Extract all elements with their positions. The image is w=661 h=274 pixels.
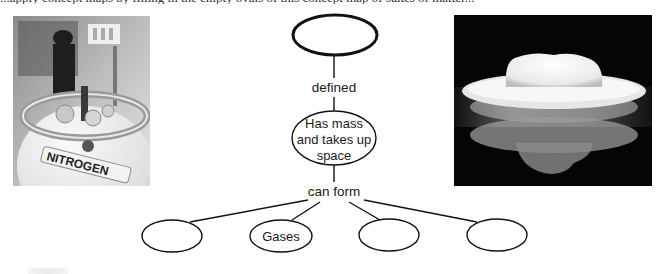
connector-to-node-3 [349, 202, 380, 220]
connector-to-node-4 [364, 200, 477, 222]
bottom-node-3-empty[interactable] [359, 219, 419, 251]
bottom-node-2-text: Gases [262, 229, 300, 244]
concept-map: defined Has mass and takes up space can … [0, 0, 661, 274]
bottom-node-4-empty[interactable] [467, 219, 527, 251]
connector-to-node-1 [190, 200, 308, 222]
middle-node-line-1: Has mass [305, 116, 363, 131]
top-node-empty[interactable] [293, 15, 377, 55]
connector-to-node-2 [292, 202, 320, 220]
link-label-can-form: can form [308, 184, 361, 199]
bottom-node-1-empty[interactable] [142, 220, 202, 252]
middle-node-line-2: and takes up [297, 132, 371, 147]
scan-artifact [28, 268, 68, 274]
link-label-defined: defined [312, 80, 356, 95]
middle-node-line-3: space [317, 148, 352, 163]
